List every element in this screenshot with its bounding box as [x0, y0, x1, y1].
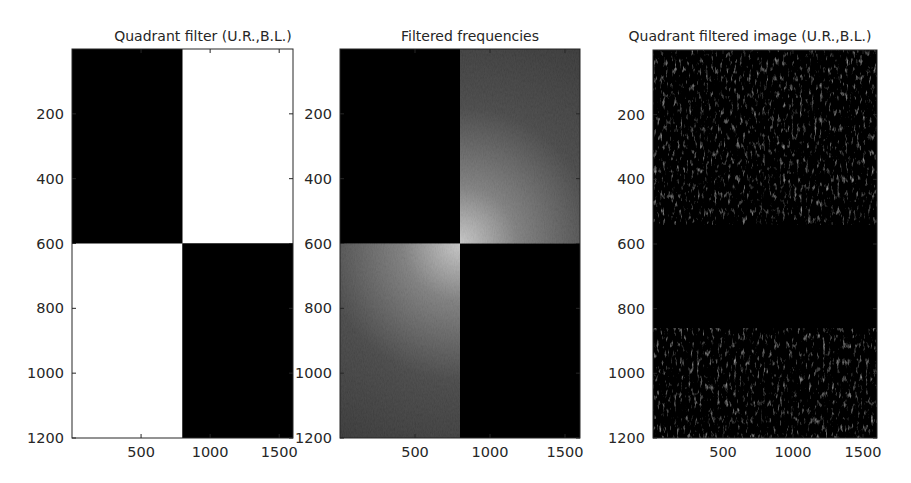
- y-tick-label: 200: [617, 107, 645, 123]
- quadrant-lower-left: [72, 244, 183, 439]
- plot-area: [72, 49, 293, 438]
- y-tick-label: 1200: [27, 430, 64, 446]
- y-tick-label: 400: [617, 171, 645, 187]
- spectrum-noise: [340, 244, 460, 439]
- plot-area: [340, 49, 580, 438]
- y-tick-label: 800: [304, 300, 332, 316]
- y-tick-label: 600: [36, 236, 64, 252]
- x-tick-label: 1500: [261, 444, 298, 460]
- y-tick-label: 600: [617, 236, 645, 252]
- panel-title: Quadrant filter (U.R.,B.L.): [114, 28, 292, 44]
- y-tick-label: 1200: [295, 430, 332, 446]
- panel-quadrant-filtered-image: Quadrant filtered image (U.R.,B.L.) 5001…: [608, 28, 881, 460]
- quadrant-upper-left: [72, 49, 183, 244]
- panel-filtered-frequencies: Filtered frequencies 50010001500 2004006…: [295, 28, 583, 460]
- y-tick-label: 800: [36, 300, 64, 316]
- plot-area: [653, 50, 877, 438]
- x-tick-label: 500: [127, 444, 155, 460]
- x-tick-label: 500: [401, 444, 429, 460]
- quadrant-upper-right: [183, 49, 294, 244]
- y-tick-label: 200: [304, 106, 332, 122]
- x-tick-label: 1000: [775, 444, 812, 460]
- x-tick-label: 1000: [472, 444, 509, 460]
- y-tick-label: 1200: [608, 430, 645, 446]
- x-tick-label: 1500: [547, 444, 584, 460]
- y-tick-label: 600: [304, 236, 332, 252]
- y-tick-label: 400: [304, 171, 332, 187]
- y-tick-label: 1000: [295, 365, 332, 381]
- figure: Quadrant filter (U.R.,B.L.) 50010001500 …: [0, 0, 911, 483]
- x-tick-label: 1500: [845, 444, 882, 460]
- y-tick-label: 1000: [608, 365, 645, 381]
- edge-streaks-band: [653, 328, 877, 438]
- x-tick-label: 500: [709, 444, 737, 460]
- y-tick-label: 400: [36, 171, 64, 187]
- y-tick-label: 800: [617, 301, 645, 317]
- quadrant-lower-right: [183, 244, 294, 439]
- y-tick-label: 200: [36, 106, 64, 122]
- x-tick-label: 1000: [192, 444, 229, 460]
- y-tick-label: 1000: [27, 365, 64, 381]
- panel-title: Quadrant filtered image (U.R.,B.L.): [629, 28, 872, 44]
- panel-title: Filtered frequencies: [401, 28, 539, 44]
- panel-quadrant-filter: Quadrant filter (U.R.,B.L.) 50010001500 …: [27, 28, 298, 460]
- edge-streaks-band: [653, 50, 877, 225]
- spectrum-noise: [460, 49, 580, 244]
